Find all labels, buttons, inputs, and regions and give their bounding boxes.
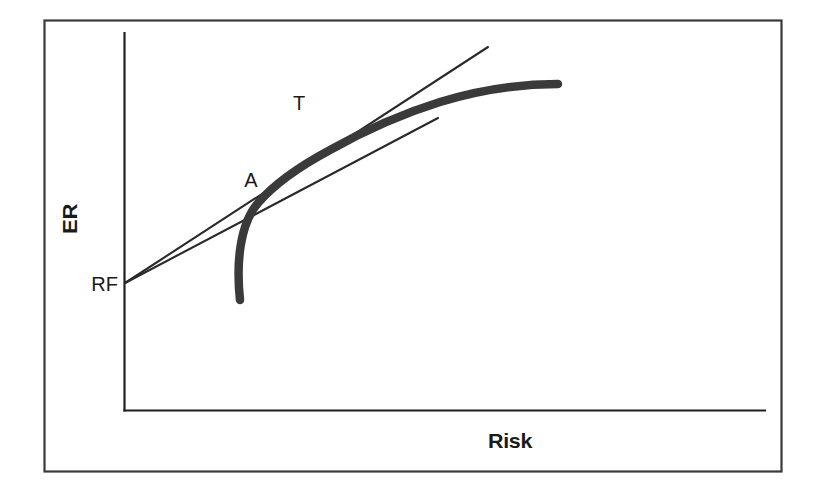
portfolio-a-label: A — [244, 169, 258, 191]
risk-return-chart: ER Risk RF A T — [0, 0, 815, 499]
figure-border — [45, 21, 782, 472]
chart-figure: ER Risk RF A T — [0, 0, 815, 499]
tangency-portfolio-label: T — [293, 92, 305, 114]
y-axis-title: ER — [58, 204, 81, 234]
x-axis-title: Risk — [488, 429, 533, 452]
risk-free-label: RF — [91, 273, 118, 295]
